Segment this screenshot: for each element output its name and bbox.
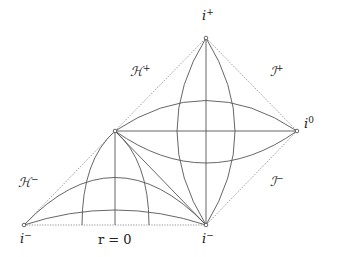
i-minus-left-label: i− [20, 230, 32, 246]
future-horizon-label: ℋ+ [130, 63, 151, 79]
coordinate-curve [206, 38, 235, 225]
i-zero-label: i0 [304, 115, 314, 131]
i-zero-point [295, 129, 299, 133]
null-boundary-line [206, 38, 297, 131]
coordinate-curves [24, 38, 297, 225]
dotted-boundaries [24, 38, 297, 225]
left-vertex-point [113, 129, 117, 133]
coordinate-curve [115, 131, 206, 225]
null-boundary-line [115, 38, 206, 131]
past-null-infinity-label: ℐ− [270, 173, 284, 189]
past-horizon-label: ℋ− [18, 174, 39, 190]
coordinate-curve [177, 38, 206, 225]
i-plus-label: i+ [202, 7, 214, 23]
i-plus-point [204, 36, 208, 40]
vertices [22, 36, 299, 227]
penrose-diagram: i+ i0 i− i− ℋ+ ℋ− ℐ+ ℐ− r = 0 [0, 0, 337, 257]
future-null-infinity-label: ℐ+ [270, 63, 284, 79]
i-minus-right-point [204, 223, 208, 227]
i-minus-right-label: i− [202, 230, 214, 246]
r-zero-label: r = 0 [98, 232, 132, 247]
i-minus-left-point [22, 223, 26, 227]
